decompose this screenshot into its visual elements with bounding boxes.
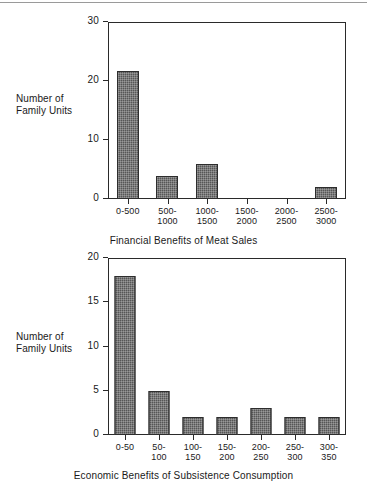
bar <box>117 71 139 199</box>
bar-slot <box>244 258 278 435</box>
top-horizontal-rule <box>0 2 367 3</box>
y-axis-tick-label: 20 <box>87 74 99 85</box>
y-axis-title-line-1: Number of <box>16 331 72 343</box>
x-axis-title: Economic Benefits of Subsistence Consump… <box>0 470 367 482</box>
bar-slot <box>267 22 307 199</box>
y-axis-title-line-2: Family Units <box>16 343 72 355</box>
x-axis-tick-mark <box>193 435 194 440</box>
bar <box>183 417 204 435</box>
x-axis-tick-mark <box>125 435 126 440</box>
x-axis-tick-label: 2000- 2500 <box>266 206 308 226</box>
bar-slot <box>306 22 346 199</box>
bar <box>196 164 218 199</box>
x-axis-tick-mark <box>207 199 208 204</box>
x-axis-ticks <box>108 199 346 205</box>
bar <box>115 276 136 435</box>
x-axis-tick-mark <box>326 199 327 204</box>
x-axis-tick-label: 0-500 <box>107 206 149 216</box>
bar-slot <box>210 258 244 435</box>
bar <box>149 391 170 435</box>
bar <box>285 417 306 435</box>
bar-slot <box>148 22 188 199</box>
bar-slot <box>176 258 210 435</box>
x-axis-title: Financial Benefits of Meat Sales <box>0 235 367 247</box>
bars-layer <box>108 258 346 435</box>
bar <box>315 187 337 199</box>
bar-slot <box>312 258 346 435</box>
x-axis-tick-label: 1500- 2000 <box>226 206 268 226</box>
x-axis-tick-mark <box>295 435 296 440</box>
bar <box>156 176 178 199</box>
x-axis-tick-label: 300- 350 <box>308 442 350 462</box>
bar-slot <box>278 258 312 435</box>
x-axis-tick-label: 500- 1000 <box>147 206 189 226</box>
x-axis-tick-mark <box>261 435 262 440</box>
x-axis-tick-mark <box>168 199 169 204</box>
bars-layer <box>108 22 346 199</box>
y-axis-title: Number of Family Units <box>16 331 72 355</box>
bar-slot <box>187 22 227 199</box>
bar <box>251 408 272 435</box>
x-axis-tick-mark <box>287 199 288 204</box>
bar-slot <box>108 22 148 199</box>
y-axis-tick-label: 5 <box>93 384 99 395</box>
x-axis-tick-label: 2500- 3000 <box>305 206 347 226</box>
x-axis-ticks <box>108 435 346 441</box>
chart-economic-benefits-of-subsistence-consumption: Number of Family Units 05101520 0-5050- … <box>0 248 367 486</box>
y-axis-tick-label: 10 <box>87 340 99 351</box>
chart-financial-benefits-of-meat-sales: Number of Family Units 0102030 0-500500-… <box>0 8 367 243</box>
bar-slot <box>108 258 142 435</box>
y-axis-tick-label: 0 <box>93 428 99 439</box>
x-axis-tick-mark <box>128 199 129 204</box>
y-axis-tick-label: 10 <box>87 133 99 144</box>
y-axis-tick-label: 30 <box>87 15 99 26</box>
bar <box>319 417 340 435</box>
y-axis-tick-label: 15 <box>87 295 99 306</box>
bar <box>217 417 238 435</box>
bar-slot <box>227 22 267 199</box>
y-axis-title-line-2: Family Units <box>16 105 72 117</box>
y-axis-title: Number of Family Units <box>16 93 72 117</box>
x-axis-tick-mark <box>159 435 160 440</box>
x-axis-tick-label: 1000- 1500 <box>186 206 228 226</box>
x-axis-tick-mark <box>227 435 228 440</box>
x-axis-tick-mark <box>247 199 248 204</box>
y-axis-title-line-1: Number of <box>16 93 72 105</box>
bar-slot <box>142 258 176 435</box>
y-axis-tick-label: 20 <box>87 251 99 262</box>
y-axis-tick-label: 0 <box>93 192 99 203</box>
x-axis-tick-mark <box>329 435 330 440</box>
